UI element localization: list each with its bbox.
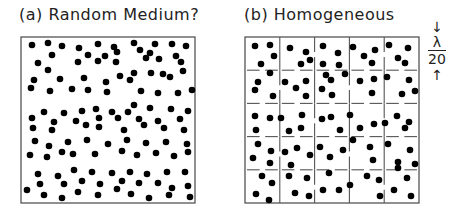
particle-dot xyxy=(253,191,260,198)
particle-dot xyxy=(109,109,116,116)
particle-dot xyxy=(293,85,300,92)
scale-indicator: ↓ λ 20 ↑ xyxy=(422,20,452,82)
particle-dot xyxy=(294,145,301,152)
particle-dot xyxy=(95,192,102,199)
particle-dot xyxy=(105,141,112,148)
particle-dot xyxy=(69,86,76,93)
particle-dot xyxy=(287,45,294,52)
particle-dot xyxy=(143,55,150,62)
particle-dot xyxy=(92,151,99,158)
particle-dot xyxy=(252,87,259,94)
particle-dot xyxy=(303,49,310,56)
particle-dot xyxy=(328,77,335,84)
particle-dot xyxy=(350,137,357,144)
particle-dot xyxy=(182,169,189,176)
particle-dot xyxy=(370,157,377,164)
particle-dot xyxy=(49,52,56,59)
particle-dot xyxy=(113,59,120,66)
particle-dot xyxy=(371,76,378,83)
particle-dot xyxy=(270,93,277,100)
particle-dot xyxy=(124,137,131,144)
particle-dot xyxy=(350,44,357,51)
diagram-canvas xyxy=(0,0,458,216)
particle-dot xyxy=(412,161,419,168)
particle-dot xyxy=(131,102,138,109)
particle-dot xyxy=(269,180,276,187)
particle-dot xyxy=(47,88,54,95)
particle-dot xyxy=(340,147,347,154)
particle-dot xyxy=(85,87,92,94)
particle-dot xyxy=(282,79,289,86)
particle-dot xyxy=(337,127,344,134)
particle-dot xyxy=(97,181,104,188)
particle-dot xyxy=(45,67,52,74)
particle-dot xyxy=(266,197,273,204)
particle-dot xyxy=(406,77,413,84)
particle-dot xyxy=(155,180,162,187)
particle-dot xyxy=(59,195,66,202)
particle-dot xyxy=(307,57,314,64)
particle-dot xyxy=(146,195,153,202)
particle-dot xyxy=(255,79,262,86)
particle-dot xyxy=(250,155,257,162)
particle-dot xyxy=(153,150,160,157)
particle-dot xyxy=(408,193,415,200)
particle-dot xyxy=(161,125,168,132)
particle-dot xyxy=(168,106,175,113)
particle-dot xyxy=(307,152,314,159)
particle-dot xyxy=(41,109,48,116)
particle-dot xyxy=(271,53,278,60)
particle-dot xyxy=(282,149,289,156)
particle-dot xyxy=(399,91,406,98)
particle-dot xyxy=(79,178,86,185)
particle-dot xyxy=(335,50,342,57)
particle-dot xyxy=(155,118,162,125)
particle-dot xyxy=(404,175,411,182)
particle-dot xyxy=(167,74,174,81)
particle-dot xyxy=(286,173,293,180)
particle-dot xyxy=(96,115,103,122)
particle-dot xyxy=(405,45,412,52)
particle-dot xyxy=(402,60,409,67)
particle-dot xyxy=(299,112,306,119)
particle-dot xyxy=(46,143,53,150)
particle-dot xyxy=(115,115,122,122)
particle-dot xyxy=(152,41,159,48)
particle-dot xyxy=(155,90,162,97)
particle-dot xyxy=(136,180,143,187)
particle-dot xyxy=(327,154,334,161)
particle-dot xyxy=(103,79,110,86)
particle-dot xyxy=(131,70,138,77)
particle-dot xyxy=(84,137,91,144)
particle-dot xyxy=(376,177,383,184)
particle-dot xyxy=(127,169,134,176)
particle-dot xyxy=(329,92,336,99)
particle-dot xyxy=(81,75,88,82)
particle-dot xyxy=(292,190,299,197)
particle-dot xyxy=(143,140,150,147)
particle-dot xyxy=(171,153,178,160)
particle-dot xyxy=(267,115,274,122)
particle-dot xyxy=(336,62,343,69)
particle-dot xyxy=(95,41,102,48)
particle-dot xyxy=(128,191,135,198)
particle-dot xyxy=(328,114,335,121)
particle-dot xyxy=(164,169,171,176)
particle-dot xyxy=(177,116,184,123)
particle-dot xyxy=(109,170,116,177)
particle-dot xyxy=(131,40,138,47)
particle-dot xyxy=(70,151,77,158)
particle-dot xyxy=(173,53,180,60)
particle-dot xyxy=(189,87,196,94)
particle-dot xyxy=(361,53,368,60)
particle-dot xyxy=(304,175,311,182)
particle-dot xyxy=(185,149,192,156)
particle-dot xyxy=(406,119,413,126)
particle-dot xyxy=(255,141,262,148)
arrow-down-icon: ↓ xyxy=(422,20,452,34)
particle-dot xyxy=(267,70,274,77)
particle-dot xyxy=(102,53,109,60)
particle-dot xyxy=(169,185,176,192)
particle-dot xyxy=(268,148,275,155)
particle-dot xyxy=(35,60,42,67)
